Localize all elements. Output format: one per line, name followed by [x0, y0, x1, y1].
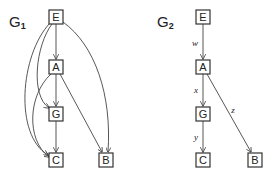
node-g: G	[49, 107, 63, 121]
edge-label-z: z	[230, 105, 235, 115]
graph-g2-edges	[203, 24, 251, 152]
diagram-canvas: G1 E A G C B	[0, 0, 273, 178]
node-b: B	[99, 153, 113, 167]
svg-text:B: B	[102, 154, 109, 166]
node-e: E	[196, 10, 210, 24]
svg-text:A: A	[199, 61, 207, 73]
node-g: G	[196, 107, 210, 121]
svg-text:G: G	[52, 108, 61, 120]
svg-text:B: B	[251, 154, 258, 166]
graph-g1-title: G1	[9, 13, 26, 31]
svg-text:E: E	[199, 11, 206, 23]
edge-e-b	[63, 22, 109, 152]
svg-text:C: C	[199, 154, 207, 166]
node-a: A	[196, 60, 210, 74]
edge-a-c	[33, 74, 51, 157]
edge-label-y: y	[193, 132, 198, 142]
edge-e-c	[25, 23, 50, 155]
svg-text:C: C	[52, 154, 60, 166]
graph-g1-edges	[25, 22, 109, 157]
node-b: B	[248, 153, 262, 167]
svg-text:E: E	[52, 11, 59, 23]
svg-text:G: G	[199, 108, 208, 120]
svg-text:A: A	[52, 61, 60, 73]
edge-a-b	[60, 74, 102, 152]
edge-a-b	[207, 74, 251, 152]
node-a: A	[49, 60, 63, 74]
graph-g1: G1 E A G C B	[9, 10, 113, 167]
edge-label-x: x	[193, 85, 198, 95]
graph-g2: G2 w x y z E A G C	[157, 10, 262, 167]
edge-label-w: w	[192, 38, 198, 48]
node-e: E	[49, 10, 63, 24]
node-c: C	[49, 153, 63, 167]
node-c: C	[196, 153, 210, 167]
graph-g2-title: G2	[157, 13, 174, 31]
